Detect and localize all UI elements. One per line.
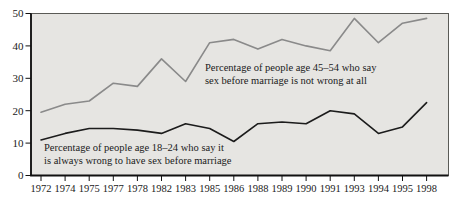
y-tick-label: 30: [13, 72, 25, 84]
x-tick-label: 1994: [368, 183, 390, 194]
x-tick-label: 1972: [31, 183, 52, 194]
x-tick-label: 1977: [103, 183, 124, 194]
x-tick-label: 1982: [151, 183, 172, 194]
x-tick-label: 1975: [79, 183, 100, 194]
x-tick-label: 1986: [223, 183, 244, 194]
annotation-line: is always wrong to have sex before marri…: [44, 155, 232, 166]
figure: 0102030405019721974197519771978198219831…: [0, 0, 454, 208]
y-tick-label: 0: [18, 169, 24, 181]
x-tick-label: 1978: [127, 183, 148, 194]
x-tick-label: 1991: [320, 183, 341, 194]
x-tick-label: 1988: [247, 183, 268, 194]
x-tick-label: 1990: [296, 183, 317, 194]
attitudes-line-chart: 0102030405019721974197519771978198219831…: [0, 0, 454, 208]
y-tick-label: 50: [13, 7, 25, 19]
x-tick-label: 1989: [272, 183, 293, 194]
y-tick-label: 10: [13, 137, 25, 149]
annotation-line: Percentage of people age 18–24 who say i…: [44, 142, 224, 153]
x-tick-label: 1974: [55, 183, 77, 194]
annotation-line: Percentage of people age 45–54 who say: [205, 62, 377, 73]
x-axis-labels: 1972197419751977197819821983198519861988…: [31, 176, 438, 194]
annotation-line: sex before marriage is not wrong at all: [205, 75, 367, 86]
x-tick-label: 1998: [416, 183, 437, 194]
y-axis-labels: 01020304050: [13, 7, 32, 181]
y-tick-label: 20: [13, 105, 25, 117]
x-tick-label: 1985: [199, 183, 220, 194]
x-tick-label: 1993: [344, 183, 365, 194]
x-tick-label: 1995: [392, 183, 413, 194]
y-tick-label: 40: [13, 40, 25, 52]
x-tick-label: 1983: [175, 183, 196, 194]
